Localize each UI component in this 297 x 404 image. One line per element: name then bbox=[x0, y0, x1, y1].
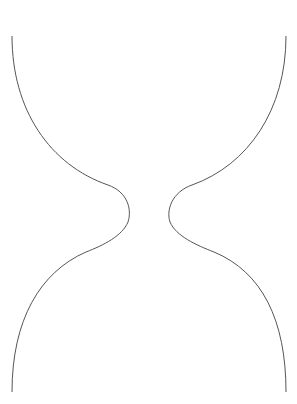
hourglass-outline bbox=[0, 0, 297, 404]
hourglass-illustration bbox=[0, 0, 297, 404]
